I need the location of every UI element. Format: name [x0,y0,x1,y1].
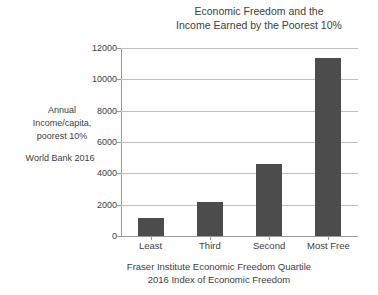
x-axis-caption-line-1: Fraser Institute Economic Freedom Quarti… [69,260,369,273]
y-tick-8000 [117,111,121,112]
bar-least [138,218,164,236]
x-axis-category-labels: LeastThirdSecondMost Free [121,240,358,256]
plot-area [121,48,358,237]
y-tick-label-4000: 4000 [75,169,117,178]
y-tick-4000 [117,173,121,174]
y-tick-2000 [117,205,121,206]
gridline-12000 [121,48,358,49]
y-tick-10000 [117,79,121,80]
y-tick-6000 [117,142,121,143]
y-tick-label-6000: 6000 [75,138,117,147]
y-tick-label-12000: 12000 [75,44,117,53]
chart-title-line-2: Income Earned by the Poorest 10% [140,18,378,32]
chart-title: Economic Freedom and the Income Earned b… [140,4,378,32]
y-tick-label-2000: 2000 [75,201,117,210]
y-tick-label-10000: 10000 [75,75,117,84]
y-tick-label-8000: 8000 [75,107,117,116]
bar-second [256,164,282,236]
x-axis-caption-line-2: 2016 Index of Economic Freedom [69,273,369,286]
y-axis-tick-labels: 120001000080006000400020000 [73,48,117,237]
chart-page: Economic Freedom and the Income Earned b… [0,0,378,295]
bar-most-free [315,58,341,236]
y-tick-0 [117,236,121,237]
x-axis-line [121,236,358,237]
y-tick-12000 [117,48,121,49]
x-axis-label-most-free: Most Free [288,240,368,251]
bar-third [197,202,223,236]
x-axis-caption: Fraser Institute Economic Freedom Quarti… [69,260,369,286]
chart-title-line-1: Economic Freedom and the [140,4,378,18]
